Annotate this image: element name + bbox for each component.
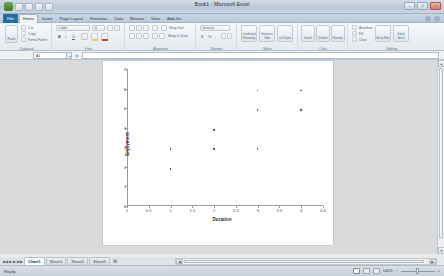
horizontal-scrollbar[interactable]: ◀ ▶ — [175, 258, 437, 265]
name-box[interactable]: A1 — [33, 52, 67, 59]
decrease-font-size-icon[interactable] — [114, 25, 120, 31]
format-painter-icon[interactable] — [21, 37, 26, 42]
tab-data[interactable]: Data — [111, 14, 126, 23]
ribbon-tab-bar: File Home Insert Page Layout Formulas Da… — [0, 14, 444, 23]
comma-button[interactable]: , — [215, 34, 216, 39]
align-middle-icon[interactable] — [136, 25, 142, 31]
align-top-icon[interactable] — [129, 25, 135, 31]
bold-button[interactable]: B — [58, 34, 61, 39]
tab-review[interactable]: Review — [127, 14, 147, 23]
percent-button[interactable]: % — [208, 34, 212, 39]
x-axis-tick-label: 1 — [169, 208, 171, 213]
currency-button[interactable]: $ — [201, 34, 203, 39]
align-left-icon[interactable] — [129, 33, 135, 39]
format-painter-label: Format Painter — [28, 38, 47, 42]
scroll-right-arrow[interactable]: ▶ — [429, 259, 436, 264]
fx-icon[interactable]: fx — [72, 53, 82, 58]
tab-page-layout[interactable]: Page Layout — [56, 14, 86, 23]
tab-file[interactable]: File — [3, 14, 18, 23]
nav-last-sheet-icon[interactable]: ▶▶ — [17, 259, 22, 264]
tab-home[interactable]: Home — [19, 14, 38, 23]
scatter-point[interactable] — [170, 148, 172, 150]
formula-input[interactable] — [82, 52, 439, 59]
tab-add-ins[interactable]: Add-Ins — [164, 14, 184, 23]
decrease-decimal-icon[interactable] — [227, 33, 232, 39]
vertical-scrollbar[interactable]: ▲ ▼ — [437, 60, 444, 254]
scatter-point[interactable] — [170, 168, 172, 170]
tab-view[interactable]: View — [148, 14, 163, 23]
x-axis-title: Duration — [119, 217, 325, 222]
name-box-dropdown-icon[interactable] — [67, 52, 72, 59]
increase-indent-icon[interactable] — [159, 33, 165, 39]
insert-cells-button[interactable]: Insert — [301, 25, 315, 42]
close-button[interactable]: × — [430, 2, 441, 10]
view-page-break-button[interactable] — [373, 268, 380, 274]
view-normal-button[interactable] — [353, 268, 360, 274]
orientation-icon[interactable] — [152, 25, 158, 31]
minimize-button[interactable]: – — [404, 2, 415, 10]
x-axis-tick-label: 0.5 — [146, 208, 152, 213]
sheet-tab-sheet1[interactable]: Sheet1 — [46, 257, 67, 265]
find-select-button[interactable]: Find & Select — [393, 25, 409, 42]
minimize-ribbon-icon[interactable] — [434, 16, 440, 22]
format-cells-button[interactable]: Format — [331, 25, 345, 42]
font-color-swatch[interactable] — [102, 39, 108, 41]
wrap-text-icon[interactable] — [161, 25, 167, 31]
increase-decimal-icon[interactable] — [221, 33, 226, 39]
increase-font-size-icon[interactable] — [107, 25, 113, 31]
sheet-tab-chart1[interactable]: Chart1 — [24, 257, 45, 265]
autosum-icon[interactable] — [352, 25, 357, 30]
new-sheet-icon[interactable]: ⊞ — [113, 259, 117, 264]
clear-icon[interactable] — [352, 37, 357, 42]
align-center-icon[interactable] — [136, 33, 142, 39]
tab-insert[interactable]: Insert — [39, 14, 55, 23]
zoom-slider-thumb[interactable] — [416, 268, 419, 274]
chart-sheet[interactable]: 01234567 00.511.522.533.544.5 Enjoyment … — [102, 60, 334, 246]
sort-filter-button[interactable]: Sort & Filter — [375, 25, 391, 42]
tab-formulas[interactable]: Formulas — [87, 14, 110, 23]
scroll-down-arrow[interactable]: ▼ — [438, 247, 444, 254]
fill-color-swatch[interactable] — [92, 39, 98, 41]
underline-button[interactable]: U — [72, 34, 75, 39]
delete-cells-button[interactable]: Delete — [316, 25, 330, 42]
horizontal-scroll-thumb[interactable] — [184, 260, 424, 263]
scatter-point[interactable] — [257, 109, 259, 111]
help-icon[interactable] — [425, 16, 431, 22]
sheet-tab-sheet3[interactable]: Sheet3 — [89, 257, 110, 265]
scatter-point[interactable] — [213, 129, 215, 131]
zoom-in-button[interactable]: + — [438, 269, 440, 273]
cell-styles-button[interactable]: Cell Styles — [277, 25, 293, 42]
view-page-layout-button[interactable] — [363, 268, 370, 274]
scatter-point[interactable] — [257, 89, 259, 91]
scroll-up-arrow[interactable]: ▲ — [438, 60, 444, 67]
ribbon-help-controls — [425, 16, 440, 22]
clear-label: Clear — [359, 38, 367, 42]
fill-label: Fill — [359, 32, 363, 36]
merge-center-label[interactable]: Merge & Center — [168, 34, 188, 38]
align-bottom-icon[interactable] — [143, 25, 149, 31]
vertical-scroll-thumb[interactable] — [439, 68, 443, 238]
y-axis-tick-label: 2 — [116, 164, 126, 169]
format-as-table-button[interactable]: Format as Table — [259, 25, 275, 42]
fill-icon[interactable] — [352, 31, 357, 36]
scatter-point[interactable] — [257, 148, 259, 150]
window-controls: – □ × — [404, 2, 441, 10]
copy-icon[interactable] — [21, 31, 26, 36]
zoom-out-button[interactable]: − — [396, 269, 398, 273]
maximize-button[interactable]: □ — [417, 2, 428, 10]
decrease-indent-icon[interactable] — [152, 33, 158, 39]
scatter-point[interactable] — [213, 148, 215, 150]
scatter-point[interactable] — [300, 89, 302, 91]
scatter-point[interactable] — [300, 109, 302, 111]
align-right-icon[interactable] — [143, 33, 149, 39]
italic-button[interactable]: I — [65, 34, 66, 39]
scroll-left-arrow[interactable]: ◀ — [176, 259, 183, 264]
y-axis-tick-label: 7 — [116, 67, 126, 72]
sheet-tab-sheet2[interactable]: Sheet2 — [67, 257, 88, 265]
paste-button[interactable]: Paste — [5, 25, 18, 43]
zoom-slider[interactable] — [401, 271, 435, 272]
y-axis-tick-label: 4 — [116, 125, 126, 130]
cut-icon[interactable] — [21, 25, 26, 30]
conditional-formatting-button[interactable]: Conditional Formatting — [241, 25, 257, 42]
borders-icon[interactable] — [81, 33, 88, 40]
